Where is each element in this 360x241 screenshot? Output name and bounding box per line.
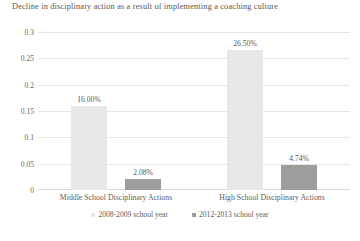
bar-middle-school-series-2 bbox=[125, 179, 161, 190]
bar-high-school-series-2 bbox=[281, 165, 317, 190]
y-tick-label: 0.15 bbox=[0, 107, 34, 116]
gridline bbox=[38, 32, 350, 33]
legend-label: 2008-2009 school year bbox=[98, 210, 168, 219]
bar-high-school-series-1 bbox=[227, 50, 263, 190]
legend-swatch-icon bbox=[192, 213, 196, 217]
legend-swatch-icon bbox=[91, 213, 95, 217]
category-label: High School Disciplinary Actions bbox=[219, 193, 324, 202]
bar-value-label: 4.74% bbox=[289, 154, 309, 163]
y-tick-label: 0.05 bbox=[0, 159, 34, 168]
legend-item[interactable]: 2012-2013 school year bbox=[192, 210, 269, 219]
chart-title: Decline in disciplinary action as a resu… bbox=[12, 2, 352, 11]
plot-area: 16.00%2.08%26.50%4.74% bbox=[38, 32, 350, 190]
legend-item[interactable]: 2008-2009 school year bbox=[91, 210, 168, 219]
gridline bbox=[38, 85, 350, 86]
y-tick-label: 0 bbox=[0, 186, 34, 195]
chart-legend: 2008-2009 school year2012-2013 school ye… bbox=[0, 210, 360, 219]
bar-value-label: 26.50% bbox=[233, 39, 256, 48]
gridline bbox=[38, 58, 350, 59]
bar-value-label: 2.08% bbox=[133, 168, 153, 177]
bar-chart: Decline in disciplinary action as a resu… bbox=[0, 0, 360, 241]
bar-value-label: 16.00% bbox=[77, 95, 100, 104]
bar-middle-school-series-1 bbox=[71, 106, 107, 190]
y-tick-label: 0.2 bbox=[0, 80, 34, 89]
category-label: Middle School Disciplinary Actions bbox=[60, 193, 172, 202]
y-tick-label: 0.3 bbox=[0, 28, 34, 37]
y-tick-label: 0.25 bbox=[0, 54, 34, 63]
legend-label: 2012-2013 school year bbox=[199, 210, 269, 219]
y-tick-label: 0.1 bbox=[0, 133, 34, 142]
